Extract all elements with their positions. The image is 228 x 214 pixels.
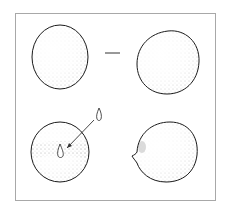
ovoid-bottom-right [132, 122, 197, 182]
sphere-top-left [32, 25, 88, 89]
ovoid-top-right [137, 31, 199, 94]
droplet-icon [97, 108, 102, 121]
figure-canvas [0, 0, 228, 214]
sphere-bottom-left [31, 122, 89, 182]
